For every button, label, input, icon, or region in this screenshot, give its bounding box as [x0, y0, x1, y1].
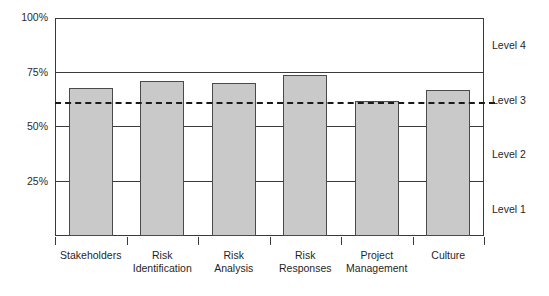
x-tick-6 — [484, 237, 485, 245]
bar-series — [55, 18, 484, 236]
y-tick-label-50: 50% — [2, 121, 48, 132]
bar-stakeholders — [69, 88, 113, 236]
x-tick-4 — [341, 237, 342, 245]
x-axis-label-line: Management — [334, 262, 420, 275]
y-tick-label-25: 25% — [2, 176, 48, 187]
band-label-level-2: Level 2 — [492, 149, 526, 160]
band-label-level-4: Level 4 — [492, 40, 526, 51]
bar-risk-identification — [140, 81, 184, 236]
band-label-level-3: Level 3 — [492, 95, 526, 106]
y-tick-label-100: 100% — [2, 12, 48, 23]
x-tick-2 — [198, 237, 199, 245]
x-tick-0 — [55, 237, 56, 245]
y-tick-label-75: 75% — [2, 67, 48, 78]
bar-project-management — [355, 101, 399, 236]
x-axis-label-culture: Culture — [405, 249, 491, 262]
band-label-level-1: Level 1 — [492, 204, 526, 215]
x-axis-label-line: Culture — [405, 249, 491, 262]
x-tick-5 — [413, 237, 414, 245]
bar-risk-responses — [283, 75, 327, 236]
x-tick-1 — [127, 237, 128, 245]
threshold-line — [55, 102, 495, 104]
bar-culture — [426, 90, 470, 236]
maturity-bar-chart: 25%50%75%100% StakeholdersRiskIdentifica… — [0, 0, 549, 296]
bar-risk-analysis — [212, 83, 256, 236]
x-tick-3 — [270, 237, 271, 245]
